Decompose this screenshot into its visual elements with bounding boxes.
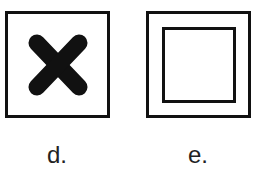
double-square-icon [162,27,236,103]
figure-d-label: d. [27,141,87,169]
x-cross-icon [27,33,89,97]
figure-e-label: e. [168,141,228,169]
